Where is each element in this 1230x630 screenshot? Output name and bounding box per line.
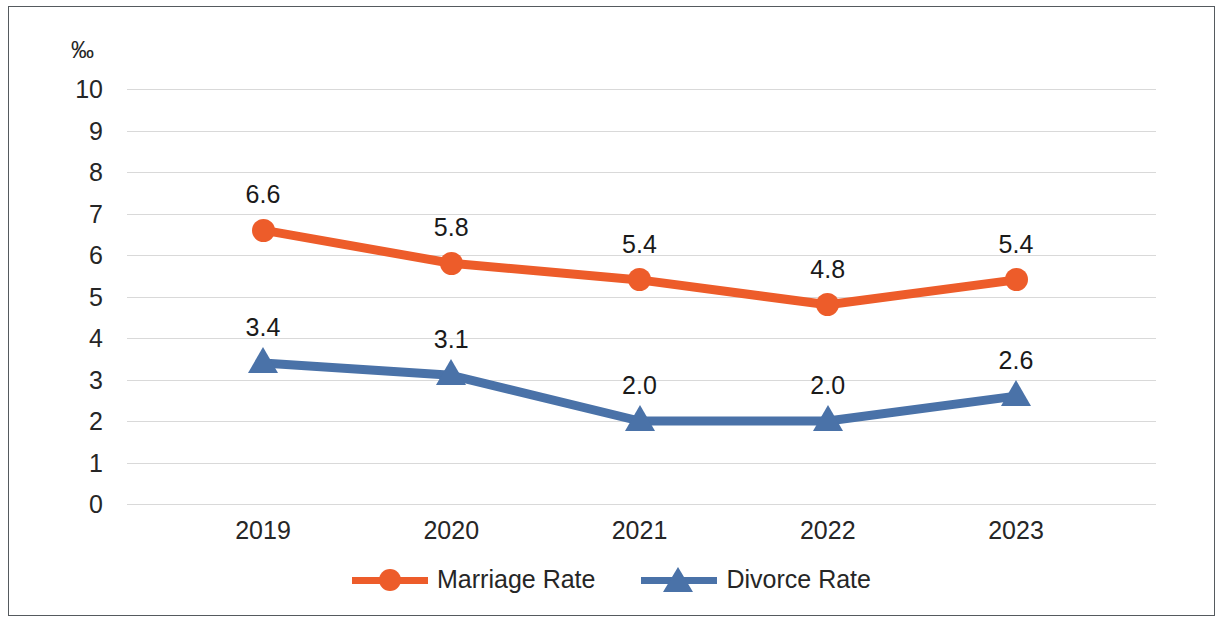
x-axis-tick-label: 2019 <box>235 516 291 545</box>
x-axis-tick-label: 2022 <box>800 516 856 545</box>
data-point-label: 6.6 <box>246 182 281 207</box>
y-axis-tick-label: 9 <box>89 118 103 143</box>
y-axis-tick-labels: 012345678910 <box>9 89 117 504</box>
x-axis-tick-label: 2021 <box>612 516 668 545</box>
legend-item[interactable]: Marriage Rate <box>352 565 595 594</box>
y-axis-unit-label: ‰ <box>71 37 94 64</box>
data-point-label: 3.1 <box>434 327 469 352</box>
data-point-label: 5.8 <box>434 215 469 240</box>
data-point-label: 2.0 <box>622 373 657 398</box>
chart-legend: Marriage RateDivorce Rate <box>9 565 1214 594</box>
gridline <box>127 89 1156 90</box>
legend-triangle-marker-icon <box>641 569 717 591</box>
data-point-marker <box>440 252 463 275</box>
data-point-label: 4.8 <box>810 257 845 282</box>
gridline <box>127 172 1156 173</box>
data-point-marker <box>436 359 466 385</box>
x-axis-tick-labels: 20192020202120222023 <box>127 512 1156 552</box>
data-point-marker <box>252 219 275 242</box>
gridline <box>127 338 1156 339</box>
data-point-label: 2.6 <box>999 348 1034 373</box>
x-axis-tick-label: 2023 <box>988 516 1044 545</box>
legend-item[interactable]: Divorce Rate <box>641 565 871 594</box>
y-axis-tick-label: 0 <box>89 492 103 517</box>
y-axis-tick-label: 10 <box>75 77 103 102</box>
gridline <box>127 463 1156 464</box>
y-axis-tick-label: 1 <box>89 450 103 475</box>
plot-area: 6.65.85.44.85.43.43.12.02.02.6 <box>127 89 1156 504</box>
y-axis-tick-label: 8 <box>89 160 103 185</box>
x-axis-tick-label: 2020 <box>423 516 479 545</box>
gridline <box>127 504 1156 505</box>
legend-label: Marriage Rate <box>437 565 595 594</box>
gridline <box>127 131 1156 132</box>
data-point-label: 5.4 <box>999 232 1034 257</box>
data-point-label: 2.0 <box>810 373 845 398</box>
data-point-marker <box>625 405 655 431</box>
data-point-marker <box>1005 268 1028 291</box>
y-axis-tick-label: 3 <box>89 367 103 392</box>
y-axis-tick-label: 6 <box>89 243 103 268</box>
data-point-label: 5.4 <box>622 232 657 257</box>
gridline <box>127 297 1156 298</box>
data-point-label: 3.4 <box>246 315 281 340</box>
y-axis-tick-label: 2 <box>89 409 103 434</box>
data-point-marker <box>628 268 651 291</box>
chart-frame: ‰ 012345678910 6.65.85.44.85.43.43.12.02… <box>8 6 1215 616</box>
data-point-marker <box>816 293 839 316</box>
y-axis-tick-label: 4 <box>89 326 103 351</box>
data-point-marker <box>248 347 278 373</box>
y-axis-tick-label: 7 <box>89 201 103 226</box>
data-point-marker <box>1001 380 1031 406</box>
legend-circle-marker-icon <box>352 569 428 591</box>
data-point-marker <box>813 405 843 431</box>
gridline <box>127 214 1156 215</box>
legend-label: Divorce Rate <box>726 565 871 594</box>
y-axis-tick-label: 5 <box>89 284 103 309</box>
